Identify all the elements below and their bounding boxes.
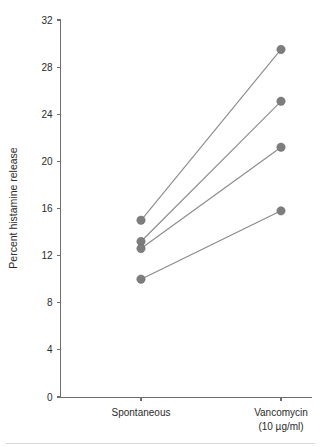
x-category-label: Vancomycin <box>254 407 308 418</box>
series-line <box>141 101 281 241</box>
y-axis-title: Percent histamine release <box>7 147 19 269</box>
y-tick-label: 28 <box>41 62 53 73</box>
series-line <box>141 147 281 248</box>
paired-line-chart: 048121620242832 SpontaneousVancomycin(10… <box>0 0 321 447</box>
data-point-marker <box>137 216 145 224</box>
y-tick-label: 0 <box>47 392 53 403</box>
x-category-label: Spontaneous <box>112 407 171 418</box>
data-point-marker <box>137 244 145 252</box>
y-tick-group: 048121620242832 <box>41 15 60 403</box>
y-tick-label: 20 <box>41 156 53 167</box>
category-label-group: SpontaneousVancomycin(10 µg/ml) <box>112 407 308 432</box>
chart-axes <box>61 20 313 398</box>
y-tick-label: 24 <box>41 109 53 120</box>
data-point-marker <box>277 97 285 105</box>
histamine-release-figure: 048121620242832 SpontaneousVancomycin(10… <box>0 0 321 447</box>
data-point-marker <box>277 45 285 53</box>
footer-divider <box>6 443 315 444</box>
data-point-marker <box>277 207 285 215</box>
y-tick-label: 8 <box>47 297 53 308</box>
data-series-group <box>137 45 285 283</box>
data-point-marker <box>137 275 145 283</box>
y-tick-label: 12 <box>41 250 53 261</box>
series-line <box>141 49 281 220</box>
y-tick-label: 16 <box>41 203 53 214</box>
y-tick-label: 32 <box>41 15 53 26</box>
y-tick-label: 4 <box>47 344 53 355</box>
x-category-sublabel: (10 µg/ml) <box>258 421 303 432</box>
data-point-marker <box>277 143 285 151</box>
